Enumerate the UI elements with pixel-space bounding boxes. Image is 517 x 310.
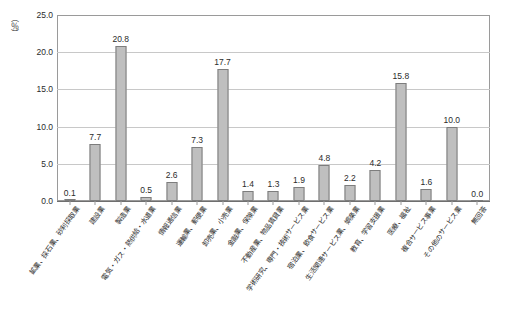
bar-chart: （％） 0.05.010.015.020.025.0 0.17.720.80.5… [0, 0, 517, 310]
plot-area: 0.17.720.80.52.67.317.71.41.31.94.82.24.… [57, 15, 490, 201]
y-axis-tick-label: 15.0 [19, 85, 53, 94]
y-axis-tick-label: 25.0 [19, 11, 53, 20]
bar-value-label: 17.7 [214, 58, 231, 67]
bar-value-label: 7.7 [89, 133, 101, 142]
x-axis-category-label-text: 情報通信業 [157, 205, 183, 237]
bar-value-label: 0.1 [64, 189, 76, 198]
x-axis-category-label-text: 宿泊業、飲食サービス業 [287, 205, 336, 271]
x-axis-category-labels: 鉱業、採石業、砂利採取業建設業製造業電気・ガス・熱供給・水道業情報通信業運輸業、… [57, 201, 490, 301]
bar-slot: 0.1 [57, 15, 82, 201]
x-axis-category-label-text: 電気・ガス・熱供給・水道業 [100, 205, 157, 282]
bar [115, 46, 126, 201]
y-axis-tick-label: 5.0 [19, 159, 53, 168]
y-axis-tick-label: 20.0 [19, 48, 53, 57]
bar-slot: 1.6 [414, 15, 439, 201]
bar-value-label: 4.2 [369, 159, 381, 168]
y-axis-tick-label: 0.0 [19, 197, 53, 206]
x-axis-category-label-text: 製造業 [114, 205, 132, 226]
bar-value-label: 20.8 [112, 35, 129, 44]
x-axis-category-label-text: 建設業 [88, 205, 106, 226]
bar-series: 0.17.720.80.52.67.317.71.41.31.94.82.24.… [57, 15, 490, 201]
bar-slot: 0.5 [133, 15, 158, 201]
bar-slot: 20.8 [108, 15, 133, 201]
y-axis-tick-labels: 0.05.010.015.020.025.0 [17, 15, 53, 201]
bar-value-label: 15.8 [393, 72, 410, 81]
bar-slot: 7.3 [184, 15, 209, 201]
x-axis-category-label-text: 鉱業、採石業、砂利採取業 [28, 205, 81, 276]
y-axis-tick-label: 10.0 [19, 122, 53, 131]
x-axis-category-label-text: 無回答 [471, 205, 489, 226]
x-axis-category-label-text: 医療、福祉 [386, 205, 412, 237]
bar-value-label: 10.0 [444, 116, 461, 125]
